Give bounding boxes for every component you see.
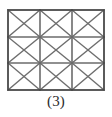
figure-caption: (3) — [0, 92, 112, 110]
diagram-background — [0, 0, 112, 96]
grid-diagram — [0, 0, 112, 96]
figure-container: (3) — [0, 0, 112, 117]
